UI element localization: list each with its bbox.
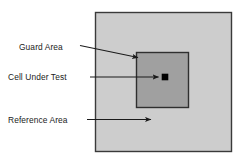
cell-under-test-label: Cell Under Test [8, 72, 67, 82]
cfar-window-diagram: Guard Area Cell Under Test Reference Are… [0, 0, 242, 161]
cell-under-test-rect [162, 74, 168, 80]
diagram-page: Guard Area Cell Under Test Reference Are… [0, 0, 242, 161]
guard-area-label: Guard Area [19, 42, 63, 52]
reference-area-label: Reference Area [8, 115, 68, 125]
